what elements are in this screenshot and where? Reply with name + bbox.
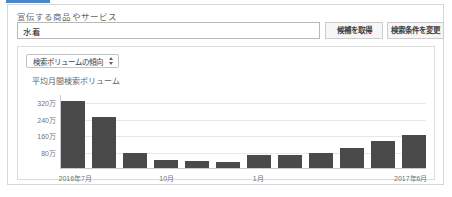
chart-bar[interactable]: [185, 161, 209, 168]
chart-x-tick-label: 1月: [253, 173, 264, 183]
chart-x-tick-label: 2017年6月: [394, 173, 427, 183]
search-volume-chart-panel: 検索ボリュームの傾向 平均月間検索ボリューム 80万160万240万320万 2…: [17, 46, 435, 180]
chart-bar[interactable]: [247, 155, 271, 168]
chart-x-tick-label: 2016年7月: [59, 173, 92, 183]
chart-bar[interactable]: [92, 117, 116, 168]
chart-y-tick-label: 240万: [37, 115, 56, 125]
modify-search-criteria-button[interactable]: 検索条件を変更: [387, 22, 444, 39]
chart-y-tick-label: 80万: [41, 148, 56, 158]
keyword-input[interactable]: [17, 22, 320, 39]
chart-bar[interactable]: [216, 162, 240, 168]
chart-title: 平均月間検索ボリューム: [32, 75, 120, 86]
chart-bar[interactable]: [154, 160, 178, 168]
chart-x-axis: [60, 168, 426, 169]
chart-x-tick-label: 10月: [159, 173, 174, 183]
chart-y-tick-label: 160万: [37, 131, 56, 141]
chart-bars: [61, 95, 426, 168]
chart-bar[interactable]: [340, 148, 364, 168]
chart-bar[interactable]: [61, 101, 85, 168]
metric-select[interactable]: 検索ボリュームの傾向: [26, 54, 119, 68]
chart-bar[interactable]: [371, 141, 395, 168]
chart-bar[interactable]: [278, 155, 302, 168]
metric-select-label: 検索ボリュームの傾向: [33, 56, 103, 67]
browser-tab-strip: [6, 0, 50, 3]
fetch-suggestions-button[interactable]: 候補を取得: [325, 22, 383, 39]
chevron-updown-icon: [108, 56, 114, 66]
keyword-planner-card: 宣伝する商品やサービス 候補を取得 検索条件を変更 検索ボリュームの傾向 平均月…: [7, 4, 444, 185]
bar-chart-plot-area: 80万160万240万320万 2016年7月10月1月2017年6月: [60, 95, 426, 169]
chart-bar[interactable]: [123, 153, 147, 168]
screenshot-root: 宣伝する商品やサービス 候補を取得 検索条件を変更 検索ボリュームの傾向 平均月…: [0, 0, 452, 197]
chart-y-tick-label: 320万: [37, 98, 56, 108]
keyword-field-label: 宣伝する商品やサービス: [17, 10, 117, 22]
chart-bar[interactable]: [402, 135, 426, 168]
chart-bar[interactable]: [309, 153, 333, 168]
